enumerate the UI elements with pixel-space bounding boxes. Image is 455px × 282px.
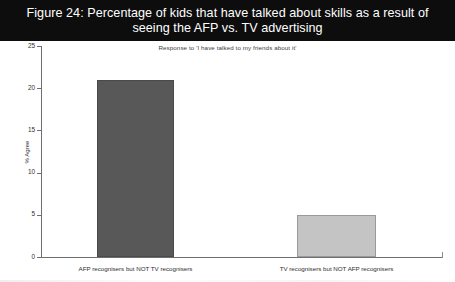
figure-title-line-1: Figure 24: Percentage of kids that have … (26, 6, 428, 20)
figure-screenshot: Figure 24: Percentage of kids that have … (0, 0, 455, 282)
y-tick-label-20: 20 (28, 84, 35, 91)
y-tick-15: 15 (37, 130, 41, 131)
y-tick-label-5: 5 (31, 210, 35, 217)
figure-title-banner: Figure 24: Percentage of kids that have … (0, 0, 455, 41)
y-tick-5: 5 (37, 215, 41, 216)
y-tick-label-15: 15 (28, 126, 35, 133)
figure-title-line-2: seeing the AFP vs. TV advertising (132, 21, 322, 35)
x-axis-line (41, 257, 443, 258)
chart-canvas: Response to 'I have talked to my friends… (0, 41, 455, 282)
bar-afp-recognisers (97, 80, 174, 257)
plot-area: % Agree 0 5 10 15 20 25 AFP rec (41, 46, 443, 257)
bar-tv-recognisers (297, 215, 376, 257)
y-axis-title: % Agree (23, 140, 30, 163)
y-tick-label-25: 25 (28, 42, 35, 49)
y-tick-label-10: 10 (28, 168, 35, 175)
x-axis-label-tv: TV recognisers but NOT AFP recognisers (257, 265, 417, 272)
y-tick-0: 0 (37, 257, 41, 258)
y-axis-line (41, 46, 42, 258)
y-tick-25: 25 (37, 46, 41, 47)
y-tick-10: 10 (37, 173, 41, 174)
x-axis-end-tick (442, 252, 443, 258)
y-tick-20: 20 (37, 88, 41, 89)
x-axis-label-afp: AFP recognisers but NOT TV recognisers (56, 265, 216, 272)
y-tick-label-0: 0 (31, 253, 35, 260)
